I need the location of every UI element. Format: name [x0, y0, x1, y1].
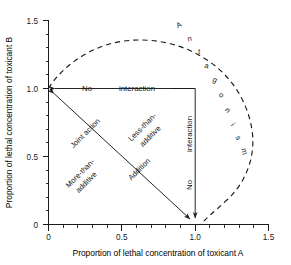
antagonism-letter: i [229, 121, 237, 128]
y-tick-label: 0 [33, 221, 38, 230]
x-tick-label: 0 [46, 233, 51, 242]
antagonism-letter: s [233, 134, 243, 142]
x-tick-label: 0.5 [116, 233, 128, 242]
annotation-addition: Addition [126, 156, 152, 182]
region-annotations: No interaction No interaction Joint acti… [64, 84, 194, 194]
antagonism-letter: n [223, 105, 232, 114]
y-axis-tick-labels: 0 0.5 1.0 1.5 [27, 17, 39, 230]
x-axis-title: Proportion of lethal concentration of to… [73, 248, 244, 258]
y-axis-title: Proportion of lethal concentration of to… [4, 36, 14, 208]
x-tick-label: 1.5 [263, 233, 275, 242]
antagonism-letter: A [174, 19, 184, 30]
y-tick-label: 1.5 [27, 17, 39, 26]
x-axis-ticks [49, 225, 269, 231]
antagonism-letter: m [239, 147, 249, 155]
x-axis-tick-labels: 0 0.5 1.0 1.5 [46, 233, 274, 242]
antagonism-letter: g [211, 75, 219, 85]
y-axis-ticks [43, 21, 49, 225]
addition-isobole-diagonal [54, 94, 190, 220]
annotation-no-vertical: No [185, 179, 194, 190]
antagonism-letter: o [217, 90, 226, 100]
annotation-interaction-horizontal: interaction [119, 84, 155, 93]
isobologram-chart: 0 0.5 1.0 1.5 0 0.5 [0, 0, 291, 265]
antagonism-letter: n [186, 34, 192, 44]
annotation-no-horizontal: No [82, 84, 93, 93]
antagonism-letter: t [198, 47, 201, 56]
y-tick-label: 0.5 [27, 153, 39, 162]
figure-root: 0 0.5 1.0 1.5 0 0.5 [0, 0, 291, 265]
annotation-interaction-vertical: interaction [185, 116, 194, 152]
antagonism-letter: a [203, 61, 210, 71]
y-tick-label: 1.0 [27, 85, 39, 94]
x-tick-label: 1.0 [190, 233, 202, 242]
